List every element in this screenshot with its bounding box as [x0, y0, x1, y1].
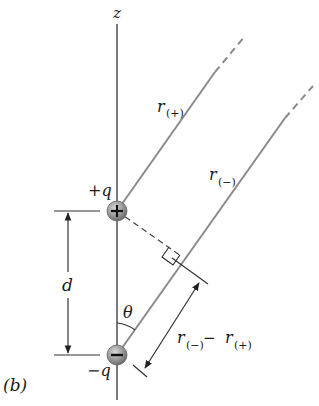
svg-text:−: − — [203, 329, 216, 347]
dipole-diagram: z r (+) r (−) d θ r (−) − r (+) +q — [0, 0, 319, 406]
perpendicular-dashed-line — [117, 211, 181, 256]
r-minus-label: r (−) — [209, 165, 236, 189]
r-plus-label: r (+) — [157, 97, 184, 120]
path-difference-label: r (−) − r (+) — [177, 328, 252, 352]
theta-label: θ — [123, 303, 133, 322]
r-minus-ray — [117, 118, 285, 355]
svg-text:(−): (−) — [218, 176, 236, 189]
r-plus-ray-dashed — [215, 36, 245, 72]
svg-text:r: r — [225, 328, 234, 347]
path-diff-arrow — [145, 283, 199, 368]
svg-text:r: r — [177, 328, 186, 347]
diagram-svg: z r (+) r (−) d θ r (−) − r (+) +q — [0, 0, 319, 406]
r-plus-ray — [117, 72, 215, 211]
svg-text:r: r — [209, 165, 218, 184]
separation-label: d — [62, 275, 73, 295]
r-minus-ray-dashed — [285, 86, 313, 118]
negative-charge-label: −q — [87, 361, 111, 380]
svg-text:(+): (+) — [166, 107, 184, 120]
svg-text:(−): (−) — [186, 339, 204, 352]
positive-charge-label: +q — [88, 181, 112, 200]
svg-text:(+): (+) — [234, 339, 252, 352]
theta-arc — [117, 323, 135, 330]
z-axis-label: z — [112, 4, 121, 22]
panel-label: (b) — [3, 375, 27, 395]
svg-text:r: r — [157, 97, 166, 116]
positive-charge — [107, 201, 127, 221]
path-diff-tick-bottom — [133, 365, 147, 377]
